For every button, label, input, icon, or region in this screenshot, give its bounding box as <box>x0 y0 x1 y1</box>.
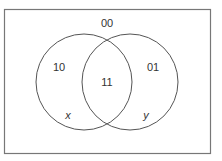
venn-diagram: 00 10 01 11 x y <box>0 0 222 161</box>
x-only-label: 10 <box>53 61 65 73</box>
intersection-label: 11 <box>101 76 112 88</box>
set-x-name: x <box>64 109 71 121</box>
universe-label: 00 <box>101 17 113 29</box>
y-only-label: 01 <box>147 61 159 73</box>
